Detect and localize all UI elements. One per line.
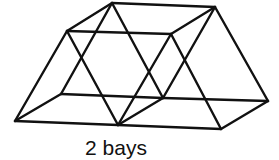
truss-member-TFR-BFR <box>171 34 221 129</box>
truss-member-TFL-BFL <box>15 31 67 121</box>
truss-member-TBL-TBR <box>112 3 215 7</box>
truss-member-BBL-BBM <box>61 94 163 98</box>
truss-member-BBM-BBR <box>163 98 268 101</box>
truss-member-BFL-BFM <box>15 121 118 125</box>
truss-member-TBR-BBR <box>215 7 268 101</box>
diagram-caption: 2 bays <box>0 137 232 159</box>
truss-members <box>15 3 268 129</box>
truss-member-TBR-BBM <box>163 7 215 98</box>
truss-member-BFR-BBR <box>221 101 268 129</box>
truss-member-TFL-TFR <box>67 31 171 34</box>
truss-member-TBL-BBL <box>61 3 112 94</box>
truss-member-TFL-BFM <box>67 31 118 125</box>
truss-member-BFM-BFR <box>118 125 221 129</box>
truss-member-TFR-BFM <box>118 34 171 125</box>
truss-member-TBL-BBM <box>112 3 163 98</box>
